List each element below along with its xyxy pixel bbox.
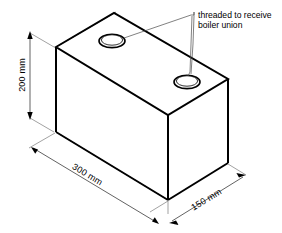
- diagram-canvas: 200 mm 300 mm 150 mm threaded to receive…: [0, 0, 282, 233]
- annotation-line-1: threaded to receive: [198, 10, 272, 20]
- length-ext-end: [150, 201, 168, 212]
- threaded-hole-front-inner: [176, 76, 197, 86]
- height-ext-bottom: [30, 118, 54, 132]
- depth-dim-label: 150 mm: [189, 186, 223, 212]
- length-ext-start: [29, 133, 55, 148]
- depth-arrow-start: [169, 221, 179, 225]
- height-ext-top: [30, 33, 54, 47]
- dimension-height: 200 mm: [17, 31, 54, 132]
- threaded-hole-back-inner: [101, 35, 122, 45]
- annotation-text-group: threaded to receive boiler union: [198, 10, 272, 30]
- length-dim-label: 300 mm: [71, 161, 105, 187]
- annotation-line-2: boiler union: [198, 20, 243, 30]
- length-arrow-start: [31, 147, 38, 154]
- technical-drawing: 200 mm 300 mm 150 mm threaded to receive…: [0, 0, 282, 233]
- height-arrow-top: [27, 31, 32, 39]
- length-arrow-end: [152, 217, 159, 224]
- height-dim-label: 200 mm: [17, 58, 27, 92]
